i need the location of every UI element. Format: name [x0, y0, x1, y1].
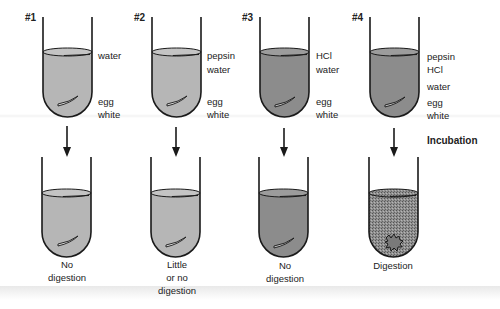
tube-3-content-label: white	[316, 109, 338, 121]
tube-3-after	[259, 157, 308, 257]
tube-2-before	[152, 17, 201, 117]
tube-4-content-label: HCl	[427, 64, 443, 76]
tube-3-result: No digestion	[250, 259, 320, 285]
tube-4-content-label: water	[427, 81, 450, 93]
tube-2-content-label: egg	[207, 96, 223, 108]
tube-1-content-label: white	[98, 109, 120, 121]
tube-4-before	[370, 17, 419, 117]
tube-1-content-label: water	[98, 50, 121, 62]
tube-3-content-label: HCl	[316, 50, 332, 62]
tube-4-after	[369, 157, 418, 257]
tube-number-1: #1	[25, 12, 36, 23]
tube-3-before	[260, 17, 309, 117]
arrow-down-icon	[172, 127, 180, 157]
arrow-down-icon	[390, 128, 398, 157]
arrow-down-icon	[280, 128, 288, 157]
tube-1-result: No digestion	[32, 258, 102, 284]
tube-2-content-label: white	[207, 109, 229, 121]
tube-4-content-label: white	[427, 110, 449, 122]
incubation-label: Incubation	[427, 135, 478, 146]
tube-1-content-label: egg	[98, 96, 114, 108]
tube-number-3: #3	[242, 12, 253, 23]
tube-3-content-label: egg	[316, 96, 332, 108]
arrow-down-icon	[63, 126, 71, 157]
tube-1-after	[42, 157, 91, 257]
tube-2-after	[151, 157, 200, 257]
tube-2-content-label: pepsin	[207, 50, 235, 62]
tube-2-result: Little or no digestion	[142, 258, 212, 297]
arrows	[63, 126, 398, 157]
tube-4-content-label: egg	[427, 97, 443, 109]
tube-4-content-label: pepsin	[427, 51, 455, 63]
tube-2-content-label: water	[207, 64, 230, 76]
tube-3-content-label: water	[316, 64, 339, 76]
tube-number-4: #4	[352, 12, 363, 23]
tube-1-before	[43, 17, 92, 117]
tube-4-result: Digestion	[358, 259, 428, 272]
tube-number-2: #2	[134, 12, 145, 23]
